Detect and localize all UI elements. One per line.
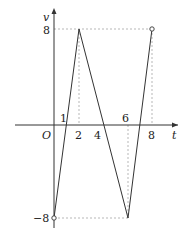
t-axis-arrow-icon [172, 123, 178, 128]
v-axis-arrow-icon [52, 8, 57, 14]
axes [15, 12, 178, 228]
x-tick-6: 6 [122, 112, 129, 125]
t-axis-label: t [172, 129, 177, 142]
x-tick-4: 4 [94, 129, 101, 142]
open-circle-start [52, 216, 56, 220]
x-tick-8: 8 [148, 129, 155, 142]
y-tick-neg8: −8 [33, 212, 49, 225]
x-tick-1: 1 [60, 112, 67, 125]
v-axis-label: v [43, 11, 50, 24]
x-tick-2: 2 [75, 129, 82, 142]
velocity-time-graph: v t O 8 −8 1 2 4 6 8 [0, 0, 186, 234]
y-tick-8: 8 [43, 24, 50, 37]
open-circle-end [150, 27, 154, 31]
origin-label: O [42, 129, 51, 142]
velocity-line [54, 29, 152, 218]
